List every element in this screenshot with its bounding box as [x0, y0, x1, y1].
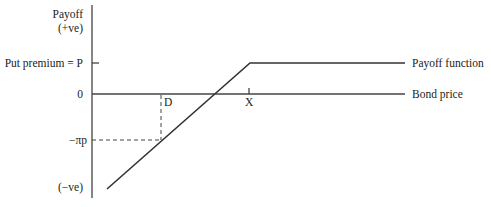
legend-payoff-function: Payoff function: [412, 57, 484, 70]
y-tick-label-premium: Put premium = P: [0, 57, 83, 70]
y-axis-label-negative: (−ve): [10, 181, 83, 194]
y-axis-label-positive: (+ve): [10, 22, 83, 35]
x-tick-label-x: X: [245, 96, 253, 109]
x-tick-label-d: D: [164, 96, 172, 109]
y-axis-label-payoff: Payoff: [10, 8, 83, 21]
payoff-function-line: [107, 63, 405, 189]
x-axis-label-bond-price: Bond price: [412, 88, 463, 101]
y-tick-label-pi-p: −πp: [10, 134, 87, 147]
y-tick-label-zero: 0: [10, 88, 83, 101]
